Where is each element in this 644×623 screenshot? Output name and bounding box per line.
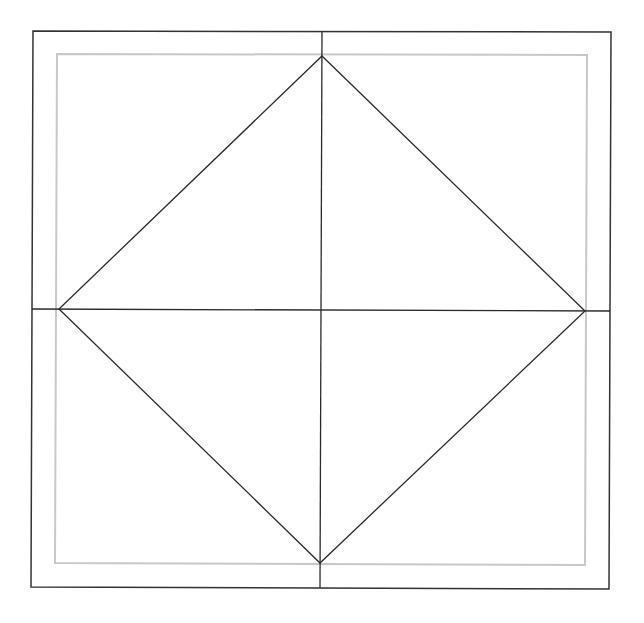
geometry-diagram [0, 0, 644, 623]
